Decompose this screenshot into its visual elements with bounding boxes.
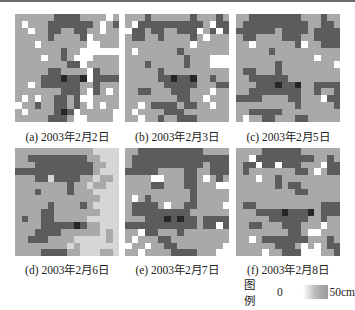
legend-title: 图例 [244, 276, 263, 308]
grid-cell [113, 189, 120, 196]
grid-cell [113, 222, 120, 229]
grid-cell [223, 222, 230, 229]
grid-cell [223, 21, 230, 28]
grid-cell [334, 88, 341, 95]
grid-cell [113, 75, 120, 82]
grid-cell [113, 61, 120, 68]
panel-caption: (e) 2003年2月7日 [115, 261, 239, 277]
grid-cell [223, 102, 230, 109]
grid-cell [113, 28, 120, 35]
grid-cell [223, 229, 230, 236]
grid-cell [334, 236, 341, 243]
grid-cell [113, 195, 120, 202]
grid-cell [113, 82, 120, 89]
panel-caption: (c) 2003年2月5日 [226, 128, 350, 144]
grid-cell [113, 182, 120, 189]
grid-cell [334, 195, 341, 202]
grid-cell [113, 216, 120, 223]
grid-cell [334, 175, 341, 182]
panel-e: (e) 2003年2月7日 [125, 148, 229, 256]
grid-cell [113, 48, 120, 55]
grid-cell [113, 148, 120, 155]
panel-b: (b) 2003年2月3日 [125, 14, 229, 122]
grid-cell [334, 48, 341, 55]
grid-cell [334, 229, 341, 236]
grid-cell [223, 61, 230, 68]
grid-cell [334, 189, 341, 196]
grid-cell [113, 109, 120, 116]
grid-cell [334, 68, 341, 75]
grid-cell [334, 28, 341, 35]
grid-cell [334, 55, 341, 62]
legend-gradient-swatch [303, 285, 329, 299]
panel-caption: (a) 2003年2月2日 [5, 128, 129, 144]
grid-cell [223, 14, 230, 21]
grid-cell [223, 34, 230, 41]
grid-cell [223, 155, 230, 162]
grid-cell [113, 168, 120, 175]
grid-cell [334, 41, 341, 48]
grid-cell [223, 41, 230, 48]
grid-cell [113, 243, 120, 250]
grid-cell [113, 21, 120, 28]
grid-cell [334, 162, 341, 169]
grid-cell [334, 95, 341, 102]
grid-cell [334, 155, 341, 162]
legend-min-label: 0 [277, 286, 283, 298]
grid-cell [223, 68, 230, 75]
grid-cell [334, 249, 341, 256]
grid-cell [334, 14, 341, 21]
grid-cell [113, 14, 120, 21]
grid-cell [223, 182, 230, 189]
grid-cell [223, 148, 230, 155]
grid-cell [113, 55, 120, 62]
grid-cell [334, 21, 341, 28]
grid-cell [334, 216, 341, 223]
grid-cell [223, 48, 230, 55]
panel-a: (a) 2003年2月2日 [15, 14, 119, 122]
legend: 图例 0 50cm [244, 284, 355, 300]
grid-cell [334, 109, 341, 116]
grid-cell [334, 243, 341, 250]
grid-cell [334, 102, 341, 109]
grid-cell [223, 115, 230, 122]
grid-cell [223, 195, 230, 202]
grid-cell [223, 82, 230, 89]
grid-cell [223, 75, 230, 82]
grid-cell [113, 102, 120, 109]
grid-cell [113, 202, 120, 209]
grid-cell [223, 209, 230, 216]
snow-depth-grid [125, 148, 229, 256]
grid-cell [113, 249, 120, 256]
grid-cell [113, 68, 120, 75]
grid-cell [223, 175, 230, 182]
snow-depth-grid [15, 148, 119, 256]
grid-cell [113, 88, 120, 95]
snow-depth-grid [236, 148, 340, 256]
grid-cell [334, 168, 341, 175]
grid-cell [223, 216, 230, 223]
panel-c: (c) 2003年2月5日 [236, 14, 340, 122]
grid-cell [113, 95, 120, 102]
grid-cell [223, 202, 230, 209]
grid-cell [334, 148, 341, 155]
grid-cell [223, 162, 230, 169]
grid-cell [113, 41, 120, 48]
grid-cell [113, 155, 120, 162]
grid-cell [223, 28, 230, 35]
grid-cell [223, 236, 230, 243]
grid-cell [113, 115, 120, 122]
panel-caption: (f) 2003年2月8日 [226, 261, 350, 277]
grid-cell [113, 236, 120, 243]
grid-cell [223, 55, 230, 62]
snow-depth-grid [125, 14, 229, 122]
grid-cell [223, 95, 230, 102]
grid-cell [223, 88, 230, 95]
grid-cell [223, 243, 230, 250]
panel-caption: (b) 2003年2月3日 [115, 128, 239, 144]
grid-cell [334, 202, 341, 209]
legend-max-label: 50cm [329, 286, 355, 298]
grid-cell [334, 82, 341, 89]
grid-cell [334, 34, 341, 41]
grid-cell [334, 182, 341, 189]
